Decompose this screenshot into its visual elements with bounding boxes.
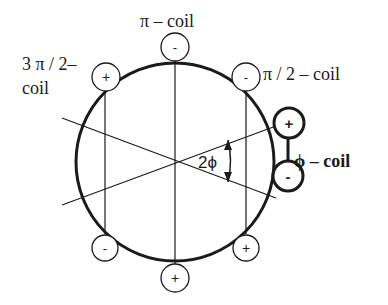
terminal-bottom: +: [161, 264, 189, 292]
svg-text:-: -: [103, 241, 107, 256]
svg-text:-: -: [244, 70, 248, 85]
angle-label: 2ϕ: [198, 153, 217, 172]
svg-text:+: +: [242, 240, 250, 256]
svg-text:+: +: [285, 115, 294, 132]
terminal-upper-right: -: [232, 63, 260, 91]
three-pi-half-coil-label-line1: 3 π / 2–: [22, 54, 78, 74]
terminal-phi-top: +: [274, 108, 304, 138]
coil-diagram: 2ϕ - + - + - - + + π – coil 3 π / 2– coi…: [0, 0, 388, 305]
svg-text:+: +: [102, 69, 110, 85]
terminal-lower-left: -: [92, 235, 118, 261]
terminal-lower-right: +: [233, 235, 259, 261]
svg-text:-: -: [286, 168, 291, 185]
svg-text:-: -: [173, 40, 177, 55]
diagonal-line-down: [62, 118, 276, 198]
svg-text:+: +: [171, 270, 179, 286]
pi-half-coil-label: π / 2 – coil: [263, 64, 340, 84]
terminal-top: -: [161, 33, 189, 61]
diagonal-line-up: [62, 126, 276, 205]
three-pi-half-coil-label-line2: coil: [22, 78, 49, 98]
pi-coil-label: π – coil: [140, 11, 194, 31]
terminal-upper-left: +: [92, 63, 120, 91]
phi-coil-label: ϕ – coil: [294, 151, 350, 171]
